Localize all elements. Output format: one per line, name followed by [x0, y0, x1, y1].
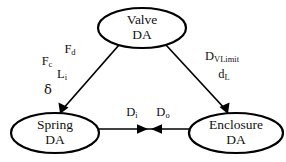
edge-label-dvlimit-sub: VLimit: [214, 54, 240, 64]
edge-label-dl-sub: L: [225, 72, 230, 82]
arrowhead-toward-spring: [151, 124, 162, 134]
edge-label-do-base: D: [156, 105, 165, 119]
diagram-canvas: Valve DA Spring DA Enclosure DA Fc Fd Li…: [0, 0, 286, 162]
edge-label-di-sub: i: [135, 110, 138, 120]
edge-label-li: Li: [57, 67, 68, 82]
edge-label-fc-sub: c: [49, 59, 53, 69]
edge-label-group-right: DVLimit dL: [205, 49, 240, 82]
edge-spring-enclosure: [97, 124, 194, 134]
edge-label-dvlimit-base: D: [205, 49, 214, 63]
node-valve-da-label-line1: Valve: [127, 12, 158, 27]
edge-label-dvlimit: DVLimit: [205, 49, 240, 64]
edge-label-do: Do: [156, 105, 169, 120]
edge-label-li-sub: i: [65, 72, 68, 82]
node-spring-da-label-line1: Spring: [37, 117, 73, 132]
edge-label-di-base: D: [126, 105, 135, 119]
node-enclosure-da-label-line1: Enclosure: [209, 117, 263, 132]
node-valve-da-label-line2: DA: [132, 27, 152, 42]
relationship-diagram: Valve DA Spring DA Enclosure DA Fc Fd Li…: [0, 0, 286, 162]
edge-label-group-left: Fc Fd Li δ: [42, 42, 77, 97]
edge-label-fd-sub: d: [71, 47, 76, 57]
edge-label-dl: dL: [218, 67, 229, 82]
edge-label-fc: Fc: [42, 54, 53, 69]
node-enclosure-da-label-line2: DA: [226, 132, 246, 147]
edge-label-fc-base: F: [42, 54, 49, 68]
edge-label-fd: Fd: [64, 42, 76, 57]
node-enclosure-da[interactable]: Enclosure DA: [189, 113, 283, 153]
edge-label-li-base: L: [57, 67, 65, 81]
arrowhead-toward-enclosure: [137, 124, 148, 134]
edge-label-fd-base: F: [64, 42, 71, 56]
edge-label-di: Di: [126, 105, 138, 120]
node-spring-da[interactable]: Spring DA: [11, 113, 99, 153]
edge-label-do-sub: o: [165, 110, 169, 120]
edge-label-delta: δ: [44, 82, 52, 97]
node-spring-da-label-line2: DA: [45, 132, 65, 147]
node-valve-da[interactable]: Valve DA: [98, 8, 186, 48]
edge-label-group-center: Di Do: [126, 105, 169, 120]
